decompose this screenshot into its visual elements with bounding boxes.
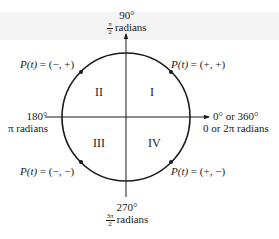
axis-top-radians: π2radians <box>101 21 153 36</box>
point-label-quadrant-3: P(t) = (−, −) <box>20 165 74 177</box>
quadrant-label-3: III <box>93 136 105 151</box>
quadrant-label-4: IV <box>148 136 161 151</box>
axis-right-degrees: 0° or 360° <box>213 110 258 122</box>
axis-left-degrees: 180° <box>20 110 54 122</box>
axis-left-radians: π radians <box>8 122 48 134</box>
point-label-quadrant-4: P(t) = (+, −) <box>171 165 225 177</box>
axis-right-radians: 0 or 2π radians <box>203 122 269 134</box>
axis-label-bottom: 270° 3π2radians <box>101 201 153 228</box>
point-quadrant-1 <box>169 70 173 74</box>
point-label-quadrant-1: P(t) = (+, +) <box>171 58 225 70</box>
quadrant-label-1: I <box>150 85 154 100</box>
point-label-quadrant-2: P(t) = (−, +) <box>20 58 74 70</box>
point-quadrant-3 <box>79 160 83 164</box>
point-quadrant-2 <box>79 70 83 74</box>
axis-bottom-radians: 3π2radians <box>101 213 153 228</box>
fraction-3pi-over-2: 3π2 <box>106 213 115 228</box>
quadrant-label-2: II <box>95 85 103 100</box>
axis-label-top: 90° π2radians <box>101 9 153 36</box>
fraction-pi-over-2: π2 <box>107 21 113 36</box>
axis-label-left: 180° <box>20 110 54 122</box>
point-quadrant-4 <box>169 160 173 164</box>
